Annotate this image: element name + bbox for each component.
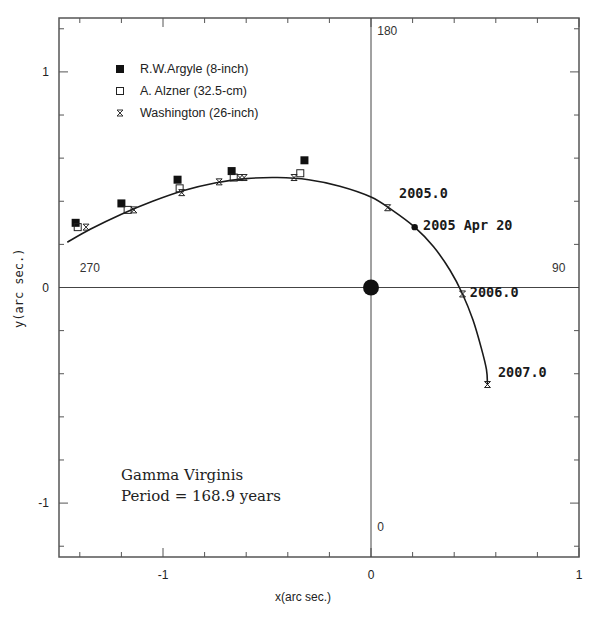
orbital-period: Period = 168.9 years (121, 487, 281, 505)
legend: R.W.Argyle (8-inch) A. Alzner (32.5-cm) … (116, 62, 258, 120)
cross-box-marker (241, 175, 247, 181)
x-tick-label: 0 (368, 568, 375, 582)
y-axis-label: y(arc sec.) (12, 249, 26, 328)
orbit-curve (67, 177, 487, 384)
compass-label: 180 (377, 24, 397, 38)
filled-square-marker (174, 176, 182, 184)
orbit-chart: -101-101 180270900 2005.02005 Apr 202006… (0, 0, 598, 626)
legend-label: Washington (26-inch) (140, 106, 258, 120)
epoch-label: 2006.0 (470, 284, 519, 300)
x-axis-label: x(arc sec.) (275, 590, 331, 604)
info-box: Gamma Virginis Period = 168.9 years (121, 466, 281, 505)
compass-label: 90 (552, 261, 566, 275)
legend-item-washington: Washington (26-inch) (117, 106, 258, 120)
epoch-label: 2005.0 (399, 185, 448, 201)
filled-square-icon (116, 65, 124, 73)
cross-box-icon (117, 110, 123, 116)
epoch-label: 2005 Apr 20 (423, 217, 512, 233)
x-tick-label: 1 (576, 568, 583, 582)
open-square-icon (117, 88, 124, 95)
epoch-dot (411, 224, 417, 230)
legend-label: R.W.Argyle (8-inch) (140, 62, 248, 76)
legend-item-alzner: A. Alzner (32.5-cm) (117, 84, 247, 98)
position-angle-labels: 180270900 (80, 24, 566, 534)
filled-square-marker (72, 219, 80, 227)
y-tick-label: 1 (42, 65, 49, 79)
open-square-marker (297, 170, 304, 177)
compass-label: 270 (80, 261, 100, 275)
y-tick-label: 0 (42, 281, 49, 295)
x-tick-label: -1 (158, 568, 169, 582)
star-name: Gamma Virginis (121, 466, 243, 484)
filled-square-marker (300, 156, 308, 164)
epoch-label: 2007.0 (498, 364, 547, 380)
primary-star (363, 280, 379, 296)
legend-label: A. Alzner (32.5-cm) (140, 84, 247, 98)
y-tick-label: -1 (38, 496, 49, 510)
cross-box-marker (460, 291, 466, 297)
compass-label: 0 (377, 520, 384, 534)
cross-box-marker (83, 224, 89, 230)
legend-item-argyle: R.W.Argyle (8-inch) (116, 62, 248, 76)
tick-labels: -101-101 (38, 65, 582, 582)
epoch-annotations: 2005.02005 Apr 202006.02007.0 (399, 185, 547, 380)
